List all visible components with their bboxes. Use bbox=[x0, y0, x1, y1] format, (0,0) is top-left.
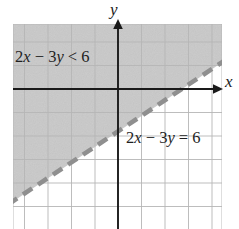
equation-label: 2x − 3y = 6 bbox=[126, 130, 201, 147]
y-axis-label: y bbox=[110, 1, 118, 18]
inequality-coef-a: 2 bbox=[15, 47, 23, 66]
x-axis-label: x bbox=[225, 73, 233, 90]
inequality-relation: < bbox=[64, 47, 82, 66]
graph-canvas bbox=[0, 0, 239, 229]
equation-var-x: x bbox=[134, 128, 141, 147]
equation-var-y: y bbox=[167, 128, 174, 147]
equation-relation: = bbox=[175, 128, 193, 147]
equation-coef-a: 2 bbox=[126, 128, 134, 147]
inequality-constant: 6 bbox=[81, 47, 89, 66]
inequality-var-y: y bbox=[56, 47, 63, 66]
inequality-label: 2x − 3y < 6 bbox=[15, 49, 90, 66]
linear-inequality-figure: y x 2x − 3y < 6 2x − 3y = 6 bbox=[0, 0, 239, 229]
equation-minus: − bbox=[142, 128, 160, 147]
inequality-minus: − bbox=[31, 47, 49, 66]
equation-constant: 6 bbox=[192, 128, 200, 147]
inequality-var-x: x bbox=[23, 47, 30, 66]
